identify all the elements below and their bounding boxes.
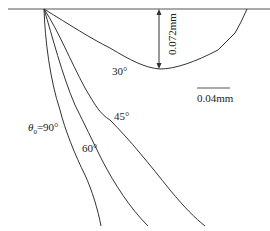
curve-30deg <box>44 9 247 69</box>
theta-value: =90° <box>37 121 59 133</box>
arrow-down-icon <box>157 63 162 69</box>
curve-90deg <box>44 9 101 226</box>
curve-label-60: 60° <box>82 143 97 154</box>
curve-label-45: 45° <box>114 111 129 122</box>
scale-bar-label: 0.04mm <box>197 93 233 104</box>
depth-label: 0.072mm <box>167 13 178 55</box>
arrow-up-icon <box>157 9 162 15</box>
curve-60deg <box>44 9 148 226</box>
diagram-canvas <box>0 0 270 231</box>
curve-label-90: θ0=90° <box>28 122 59 136</box>
crater-trajectory-diagram: 0.072mm 0.04mm 30° 45° 60° θ0=90° <box>0 0 270 231</box>
curve-label-30: 30° <box>112 66 127 77</box>
